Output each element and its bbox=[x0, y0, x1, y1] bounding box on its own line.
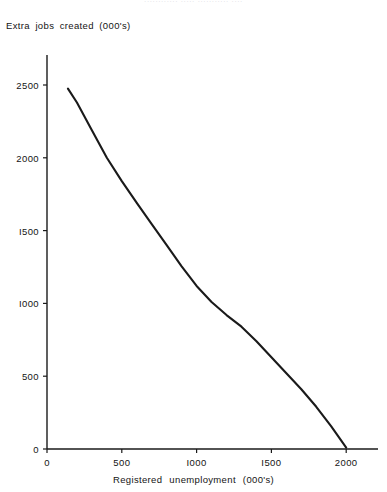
x-axis-tick-label: I500 bbox=[261, 457, 281, 468]
chart-figure: ............ ..... ........... .... Extr… bbox=[0, 0, 387, 492]
x-axis-tick-label: 0 bbox=[44, 457, 50, 468]
y-axis-tick-label: 0 bbox=[33, 444, 39, 455]
y-axis-tick-label: I500 bbox=[19, 225, 39, 236]
y-axis-tick-label: I000 bbox=[19, 298, 39, 309]
y-axis-tick-label: 2000 bbox=[16, 152, 39, 163]
x-axis-tick-label: I000 bbox=[187, 457, 207, 468]
x-axis-title: Registered unemployment (000's) bbox=[0, 474, 387, 485]
x-axis-tick-label: 500 bbox=[113, 457, 130, 468]
x-axis-tick-label: 2000 bbox=[335, 457, 358, 468]
y-axis-tick-label: 2500 bbox=[16, 80, 39, 91]
plot-area bbox=[0, 0, 387, 492]
data-line bbox=[68, 89, 346, 448]
y-axis-tick-label: 500 bbox=[22, 371, 39, 382]
axis-lines bbox=[47, 55, 378, 449]
data-series-group bbox=[68, 89, 346, 448]
